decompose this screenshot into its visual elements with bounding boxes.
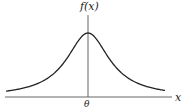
density-diagram [0,0,183,111]
center-tick-label: θ [84,100,89,109]
x-axis-label: x [175,92,181,103]
density-curve [6,33,165,91]
y-axis-label: f(x) [80,1,99,12]
